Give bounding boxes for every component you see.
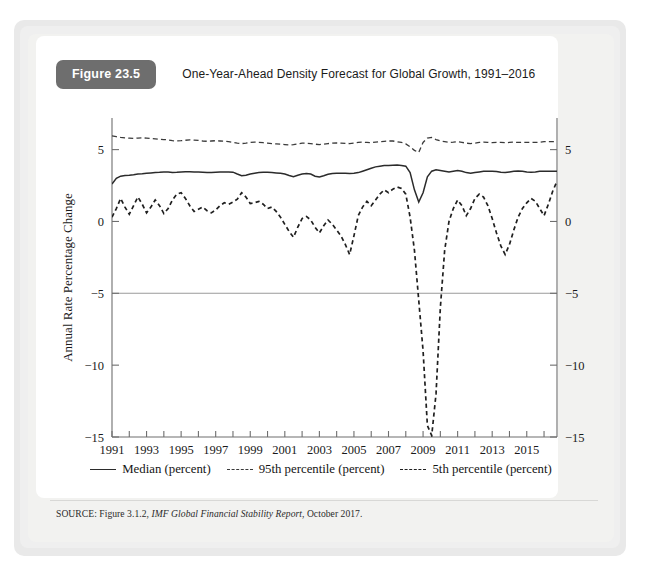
legend-label-p95: 95th percentile (percent) <box>259 462 385 477</box>
y-ticklabel-right--5: −5 <box>565 287 578 301</box>
chart-area: 5500−5−5−10−10−15−1519911993199519971999… <box>56 104 586 454</box>
x-ticklabel-2015: 2015 <box>514 443 539 454</box>
chart-legend: Median (percent) 95th percentile (percen… <box>56 462 586 477</box>
x-ticklabel-2005: 2005 <box>341 443 366 454</box>
legend-swatch-p05-icon <box>400 469 426 470</box>
figure-page: Figure 23.5 One-Year-Ahead Density Forec… <box>0 0 649 579</box>
series-line-p05 <box>112 181 557 435</box>
y-ticklabel-right--15: −15 <box>565 431 585 445</box>
y-axis-title: Annual Rate Percentage Change <box>60 193 75 362</box>
legend-item-p95: 95th percentile (percent) <box>227 462 385 477</box>
x-ticklabel-2007: 2007 <box>376 443 401 454</box>
source-divider <box>50 500 598 501</box>
line-chart: 5500−5−5−10−10−15−1519911993199519971999… <box>56 104 586 454</box>
source-suffix: , October 2017. <box>302 508 362 519</box>
x-ticklabel-1991: 1991 <box>100 443 125 454</box>
source-prefix: SOURCE: Figure 3.1.2, <box>56 508 151 519</box>
legend-item-p05: 5th percentile (percent) <box>400 462 551 477</box>
x-ticklabel-1995: 1995 <box>169 443 194 454</box>
series-line-median <box>112 165 557 202</box>
x-ticklabel-1993: 1993 <box>134 443 159 454</box>
x-ticklabel-1997: 1997 <box>203 443 228 454</box>
source-publication: IMF Global Financial Stability Report <box>151 508 302 519</box>
x-ticklabel-1999: 1999 <box>238 443 263 454</box>
x-ticklabel-2009: 2009 <box>411 443 436 454</box>
x-ticklabel-2003: 2003 <box>307 443 332 454</box>
figure-source: SOURCE: Figure 3.1.2, IMF Global Financi… <box>56 508 596 519</box>
y-ticklabel-right--10: −10 <box>565 359 585 373</box>
y-ticklabel-right-5: 5 <box>565 143 571 157</box>
series-line-p95 <box>112 136 557 153</box>
legend-swatch-p95-icon <box>227 469 253 470</box>
figure-title: One-Year-Ahead Density Forecast for Glob… <box>182 67 535 81</box>
x-ticklabel-2001: 2001 <box>272 443 297 454</box>
y-ticklabel-0: 0 <box>98 215 104 229</box>
legend-label-p05: 5th percentile (percent) <box>432 462 551 477</box>
x-ticklabel-2011: 2011 <box>445 443 470 454</box>
x-ticklabel-2013: 2013 <box>480 443 505 454</box>
figure-number-badge: Figure 23.5 <box>56 60 156 89</box>
y-ticklabel-right-0: 0 <box>565 215 571 229</box>
y-ticklabel--10: −10 <box>84 359 104 373</box>
y-ticklabel--5: −5 <box>91 287 104 301</box>
legend-item-median: Median (percent) <box>90 462 210 477</box>
figure-header: Figure 23.5 One-Year-Ahead Density Forec… <box>56 56 596 92</box>
legend-swatch-median-icon <box>90 469 116 470</box>
y-ticklabel-5: 5 <box>98 143 104 157</box>
legend-label-median: Median (percent) <box>122 462 210 477</box>
